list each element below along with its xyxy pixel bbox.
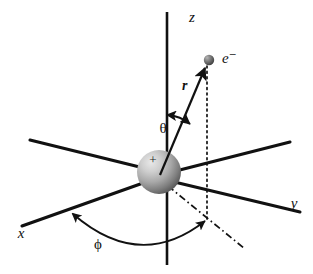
phi-arc [73, 214, 205, 245]
polar-angle-theta: θ [159, 115, 190, 136]
phi-label: ϕ [94, 236, 102, 252]
electron-label: e⁻ [222, 50, 237, 66]
z-axis-label: z [188, 9, 195, 25]
nucleus: + [137, 150, 181, 194]
electron-sphere [204, 55, 214, 65]
nucleus-sphere [137, 150, 181, 194]
azimuthal-angle-phi: ϕ [73, 214, 205, 252]
axis-lines [22, 12, 300, 265]
y-axis-label: y [289, 195, 298, 211]
r-vector-label: r [182, 78, 188, 93]
x-axis-label: x [17, 225, 25, 241]
theta-arc [168, 115, 190, 124]
diagram-canvas: + e⁻ θ ϕ r z x y [0, 0, 313, 274]
theta-label: θ [159, 120, 166, 136]
x-axis-line [22, 177, 160, 226]
nucleus-charge-label: + [149, 152, 156, 167]
electron: e⁻ [204, 50, 237, 66]
y-axis-line [166, 180, 300, 212]
spherical-coordinates-diagram: + e⁻ θ ϕ r z x y [0, 0, 313, 274]
